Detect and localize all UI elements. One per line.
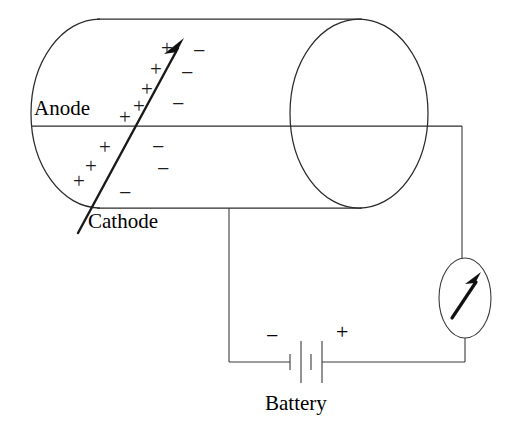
galvanometer [439,258,491,338]
diagram-svg: + + + + + + + + − − − − − − [0,0,526,436]
positive-charge: + [119,105,131,129]
negative-charge: − [193,38,205,63]
battery-negative-terminal-label: − [266,323,278,349]
discharge-tube [31,19,462,208]
positive-charge: + [161,36,173,60]
negative-charge: − [172,91,184,116]
positive-charge: + [73,169,85,193]
positive-charge: + [133,94,145,118]
negative-charge: − [157,156,169,181]
positive-charge: + [99,135,111,159]
negative-charge: − [119,180,131,205]
anode-label: Anode [34,96,90,121]
figure-canvas: + + + + + + + + − − − − − − [0,0,526,436]
battery-positive-terminal-label: + [336,319,348,345]
positive-charge: + [85,154,97,178]
negative-charge: − [181,60,193,85]
negative-charge-group: − − − − − − [119,38,205,205]
battery-label: Battery [265,391,327,416]
battery-symbol [290,341,322,383]
galvanometer-needle [452,282,476,318]
cathode-label: Cathode [88,209,158,234]
tube-right-cap [290,19,428,208]
